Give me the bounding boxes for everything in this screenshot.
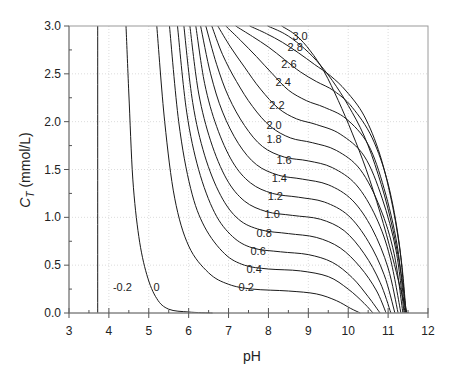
contour-label: 1.8 — [266, 133, 281, 145]
y-tick-label: 1.5 — [44, 163, 61, 177]
x-tick-label: 3 — [66, 324, 73, 338]
contour-label: 1.2 — [268, 190, 283, 202]
contour-label: 0 — [154, 281, 160, 293]
y-axis: 0.00.51.01.52.02.53.0 — [44, 19, 72, 320]
x-tick-label: 7 — [225, 324, 232, 338]
contour-label: 3.0 — [292, 30, 307, 42]
contour-line — [201, 26, 399, 313]
x-axis: 3456789101112 — [66, 308, 435, 338]
contour-label: 0.8 — [256, 227, 271, 239]
contour-label: 0.4 — [247, 263, 262, 275]
y-tick-label: 2.0 — [44, 115, 61, 129]
x-tick-label: 12 — [421, 324, 435, 338]
x-tick-label: 10 — [342, 324, 356, 338]
contour-label: 2.0 — [266, 119, 281, 131]
contour-label: 1.6 — [276, 154, 291, 166]
x-tick-label: 8 — [265, 324, 272, 338]
contour-label: 2.4 — [276, 76, 291, 88]
y-tick-label: 2.5 — [44, 67, 61, 81]
contour-label: 2.8 — [288, 41, 303, 53]
contour-label: 2.2 — [269, 99, 284, 111]
y-tick-label: 0.0 — [44, 306, 61, 320]
y-axis-title: CT (mmol/L) — [17, 132, 36, 207]
x-tick-label: 11 — [382, 324, 395, 338]
contour-chart: -0.200.20.40.60.81.01.21.41.61.82.02.22.… — [0, 0, 453, 377]
y-tick-label: 0.5 — [44, 258, 61, 272]
contour-label: 0.2 — [239, 281, 254, 293]
x-tick-label: 5 — [145, 324, 152, 338]
contour-label: 2.6 — [281, 58, 296, 70]
x-tick-label: 6 — [185, 324, 192, 338]
contour-label: -0.2 — [113, 281, 132, 293]
y-axis-title-unit: (mmol/L) — [17, 132, 33, 191]
x-axis-title: pH — [243, 348, 261, 364]
contour-label: 1.0 — [264, 208, 279, 220]
x-tick-label: 9 — [305, 324, 312, 338]
x-tick-label: 4 — [106, 324, 113, 338]
y-tick-label: 1.0 — [44, 210, 61, 224]
contour-label: 0.6 — [250, 245, 265, 257]
contour-label: 1.4 — [272, 172, 287, 184]
y-tick-label: 3.0 — [44, 19, 61, 33]
